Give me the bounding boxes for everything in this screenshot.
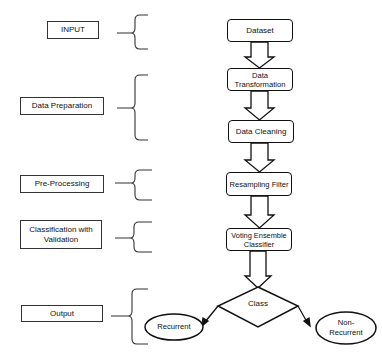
stage-pre-processing-label: Pre-Processing (35, 179, 90, 189)
down-arrow-icon (245, 91, 274, 120)
stage-output-label: Output (50, 309, 74, 319)
step-dataset-label: Dataset (246, 26, 274, 36)
step-data-cleaning-label: Data Cleaning (236, 127, 287, 137)
step-resampling-filter: Resampling Filter (226, 172, 292, 196)
stage-classification: Classification with Validation (20, 220, 102, 249)
outcome-non-recurrent: Non-Recurrent (322, 315, 370, 341)
step-resampling-filter-label: Resampling Filter (229, 180, 288, 189)
outcome-recurrent-label: Recurrent (157, 322, 190, 332)
brace-icon (111, 289, 148, 344)
down-arrow-icon (245, 196, 274, 228)
stage-output: Output (21, 305, 103, 322)
down-arrow-icon (245, 143, 274, 172)
down-arrow-icon (245, 251, 271, 288)
step-voting-ensemble-classifier: Voting Ensemble Classifier (226, 228, 292, 251)
outcome-non-recurrent-label: Non-Recurrent (322, 318, 370, 338)
brace-icon (115, 170, 152, 200)
step-dataset: Dataset (227, 19, 293, 42)
step-data-transformation-label: Data Transformation (228, 71, 292, 89)
brace-icon (115, 222, 152, 252)
step-voting-ensemble-classifier-label: Voting Ensemble Classifier (227, 231, 291, 249)
stage-input: INPUT (47, 21, 99, 39)
brace-icon (117, 15, 148, 49)
decision-text: Class (248, 299, 268, 309)
brace-icon (117, 75, 148, 140)
down-arrow-icon (245, 42, 274, 68)
outcome-recurrent: Recurrent (146, 320, 202, 334)
stage-data-preparation: Data Preparation (20, 97, 104, 115)
decision-label: Class (238, 298, 278, 310)
stage-data-preparation-label: Data Preparation (32, 101, 92, 111)
stage-classification-label: Classification with Validation (23, 225, 99, 245)
stage-input-label: INPUT (61, 25, 85, 35)
step-data-cleaning: Data Cleaning (228, 120, 294, 143)
stage-pre-processing: Pre-Processing (20, 175, 104, 193)
step-data-transformation: Data Transformation (227, 68, 293, 91)
stage-braces (111, 15, 152, 344)
